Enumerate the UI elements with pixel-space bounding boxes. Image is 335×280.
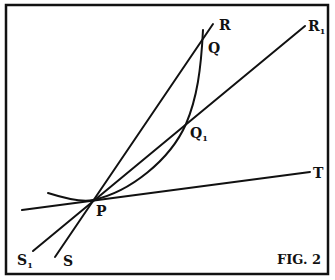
label-S: S bbox=[63, 253, 73, 269]
secant-line-S1R1 bbox=[33, 26, 305, 251]
label-Q: Q bbox=[208, 40, 220, 56]
tangent-secant-diagram: R R1 Q Q1 T P S1 S FIG. 2 bbox=[0, 0, 335, 280]
label-T: T bbox=[313, 165, 324, 181]
label-Q1: Q1 bbox=[190, 125, 208, 143]
figure-caption: FIG. 2 bbox=[277, 252, 321, 267]
label-R1: R1 bbox=[308, 18, 325, 36]
label-S1: S1 bbox=[17, 252, 33, 270]
label-P: P bbox=[96, 203, 107, 219]
label-R: R bbox=[219, 17, 231, 33]
tangent-line-PT bbox=[22, 172, 310, 210]
